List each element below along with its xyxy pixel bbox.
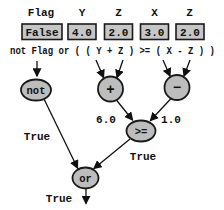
result-not-true: True bbox=[24, 131, 51, 143]
variable-value-y: 4.0 bbox=[72, 27, 92, 39]
node-or-label: or bbox=[79, 173, 92, 185]
variable-name-flag: Flag bbox=[28, 7, 54, 19]
diagram-svg: Flag Y Z X Z False 4.0 2.0 3.0 2.0 not F… bbox=[0, 0, 224, 210]
edge-expr-z-to-minus bbox=[184, 60, 190, 76]
variable-name-z1: Z bbox=[115, 7, 122, 19]
variable-value-z2: 2.0 bbox=[180, 27, 200, 39]
edge-expr-x-to-minus bbox=[163, 60, 170, 76]
edge-expr-z-to-plus bbox=[117, 60, 123, 78]
expression-tree-diagram: Flag Y Z X Z False 4.0 2.0 3.0 2.0 not F… bbox=[0, 0, 224, 210]
result-or-true: True bbox=[46, 193, 73, 205]
variable-name-z2: Z bbox=[186, 7, 193, 19]
edge-gte-to-or bbox=[94, 139, 130, 169]
variable-value-flag: False bbox=[25, 27, 58, 39]
node-minus-label: − bbox=[173, 80, 181, 96]
result-gte-true: True bbox=[130, 151, 157, 163]
node-plus-label: + bbox=[106, 82, 114, 98]
result-plus-6: 6.0 bbox=[96, 114, 116, 126]
edge-expr-y-to-plus bbox=[96, 60, 104, 78]
node-not-label: not bbox=[27, 85, 46, 97]
node-gte-label: >= bbox=[135, 126, 148, 138]
variable-name-y: Y bbox=[79, 7, 86, 19]
expression-text: not Flag or ( ( Y + Z ) >= ( X - Z ) ) bbox=[10, 45, 215, 57]
variable-name-x: X bbox=[151, 7, 158, 19]
result-minus-1: 1.0 bbox=[161, 114, 181, 126]
edge-plus-to-gte bbox=[116, 100, 133, 121]
variable-value-x: 3.0 bbox=[145, 27, 165, 39]
variable-value-z1: 2.0 bbox=[109, 27, 129, 39]
